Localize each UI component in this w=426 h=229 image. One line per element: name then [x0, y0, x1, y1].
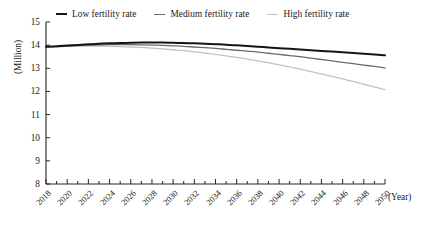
y-tick-label: 12 — [24, 86, 40, 96]
y-tick-label: 9 — [24, 156, 40, 166]
y-tick-label: 10 — [24, 133, 40, 143]
chart-page: Low fertility rateMedium fertility rateH… — [0, 0, 426, 229]
y-tick-label: 11 — [24, 110, 40, 120]
y-tick-label: 15 — [24, 17, 40, 27]
y-tick-label: 8 — [24, 179, 40, 189]
y-axis-title: (Million) — [13, 27, 23, 87]
series-line-1 — [46, 45, 385, 68]
y-tick-label: 13 — [24, 63, 40, 73]
y-tick-label: 14 — [24, 40, 40, 50]
